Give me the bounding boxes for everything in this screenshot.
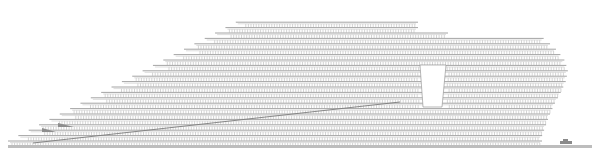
central-void-opening [420, 65, 446, 107]
car-icon [560, 139, 572, 144]
floor-slab-layer [8, 22, 568, 142]
building-elevation-drawing [0, 0, 603, 156]
mullion-layer [12, 24, 564, 146]
ground-line [8, 145, 592, 148]
